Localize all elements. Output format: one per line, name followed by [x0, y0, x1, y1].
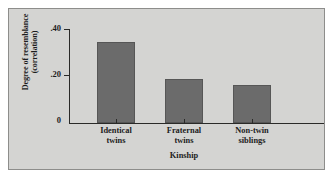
- bar-non-twin-siblings: [233, 85, 271, 123]
- x-tick-label-non-twin-siblings: Non-twin siblings: [218, 126, 286, 146]
- x-axis-line: [69, 123, 324, 124]
- x-tick-mark-identical-twins: [116, 119, 117, 124]
- figure-frame: Degree of resemblance (correlation) .40 …: [8, 8, 325, 170]
- chart-screenshot: Degree of resemblance (correlation) .40 …: [0, 0, 335, 180]
- x-tick-label-non-twin-siblings-line-2: siblings: [218, 136, 286, 146]
- x-tick-label-non-twin-siblings-line-1: Non-twin: [218, 126, 286, 136]
- x-tick-mark-non-twin-siblings: [252, 119, 253, 124]
- y-axis-title-line-2: (correlation): [31, 4, 40, 100]
- y-axis-title: Degree of resemblance (correlation): [22, 4, 52, 100]
- x-axis-title: Kinship: [124, 151, 244, 160]
- x-tick-label-identical-twins-line-1: Identical: [82, 126, 150, 136]
- x-tick-label-fraternal-twins-line-2: twins: [150, 136, 218, 146]
- y-tick-label-0: 0: [35, 115, 61, 125]
- x-tick-label-fraternal-twins: Fraternal twins: [150, 126, 218, 146]
- x-tick-label-identical-twins-line-2: twins: [82, 136, 150, 146]
- x-tick-label-identical-twins: Identical twins: [82, 126, 150, 146]
- bar-identical-twins: [97, 42, 135, 123]
- y-axis-line: [69, 29, 70, 123]
- y-tick-label-040: .40: [35, 23, 61, 33]
- bar-fraternal-twins: [165, 79, 203, 123]
- x-tick-mark-fraternal-twins: [184, 119, 185, 124]
- y-tick-label-020: .20: [35, 69, 61, 79]
- x-tick-label-fraternal-twins-line-1: Fraternal: [150, 126, 218, 136]
